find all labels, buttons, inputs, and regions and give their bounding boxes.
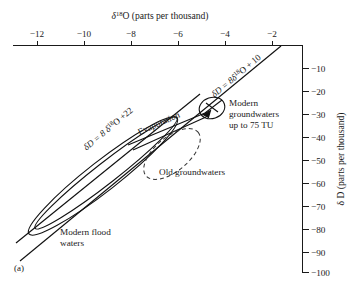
x-tick-label-5: −2: [267, 29, 277, 39]
modern-groundwaters-label-line2: groundwaters: [229, 109, 279, 119]
panel-label: (a): [14, 263, 24, 273]
y-tick-label-1: −20: [311, 87, 326, 97]
x-axis-title: δ18O (parts per thousand): [111, 10, 208, 23]
y-tick-label-5: −60: [311, 179, 326, 189]
modern-flood-waters-label-line2: waters: [60, 238, 84, 248]
y-tick-label-6: −70: [311, 202, 326, 212]
figure-panel-a: −12 −10 −8 −6 −4 −2 −10 −20 −30 −40 −50: [0, 0, 352, 297]
y-tick-label-0: −10: [311, 64, 326, 74]
modern-flood-waters-label: Modern flood waters: [60, 227, 111, 248]
y-axis-tick-labels: −10 −20 −30 −40 −50 −60 −70 −80 −90 −100: [311, 64, 330, 278]
axes-group: [13, 46, 303, 273]
old-groundwaters-label: Old groundwaters: [159, 167, 226, 177]
y-axis-ticks: [303, 69, 309, 273]
y-tick-label-3: −40: [311, 133, 326, 143]
y-axis-title: δ D (parts per thousand): [335, 113, 347, 206]
modern-groundwaters-label-line1: Modern: [229, 98, 258, 108]
global-mwl-equation-label: δD = 8δ18O + 10: [208, 51, 263, 100]
x-axis-ticks: [38, 41, 273, 46]
y-axis-title-text: δ D (parts per thousand): [335, 113, 347, 206]
chart-canvas: −12 −10 −8 −6 −4 −2 −10 −20 −30 −40 −50: [0, 0, 352, 297]
modern-groundwaters-label: Modern groundwaters up to 75 TU: [229, 98, 279, 130]
x-tick-label-3: −6: [173, 29, 183, 39]
y-tick-label-2: −30: [311, 110, 326, 120]
y-tick-label-4: −50: [311, 156, 326, 166]
modern-flood-waters-label-line1: Modern flood: [60, 227, 111, 237]
x-tick-label-4: −4: [220, 29, 230, 39]
panel-label-text: (a): [14, 263, 24, 273]
svg-text:δD = 8δ18O + 10: δD = 8δ18O + 10: [208, 51, 263, 100]
y-tick-label-8: −90: [311, 248, 326, 258]
x-axis-title-rest: O (parts per thousand): [123, 10, 209, 22]
y-tick-label-9: −100: [311, 268, 330, 278]
old-groundwaters-label-text: Old groundwaters: [159, 167, 226, 177]
lmwl-eq-rhs: O +22: [111, 105, 135, 127]
modern-groundwaters-marker: [196, 94, 227, 122]
x-axis-tick-labels: −12 −10 −8 −6 −4 −2: [30, 29, 277, 39]
svg-text:δ18O (parts per thousand): δ18O (parts per thousand): [111, 10, 208, 23]
x-tick-label-0: −12: [30, 29, 45, 39]
x-tick-label-1: −10: [77, 29, 92, 39]
modern-groundwaters-label-line3: up to 75 TU: [229, 120, 274, 130]
y-tick-label-7: −80: [311, 225, 326, 235]
x-tick-label-2: −8: [126, 29, 136, 39]
